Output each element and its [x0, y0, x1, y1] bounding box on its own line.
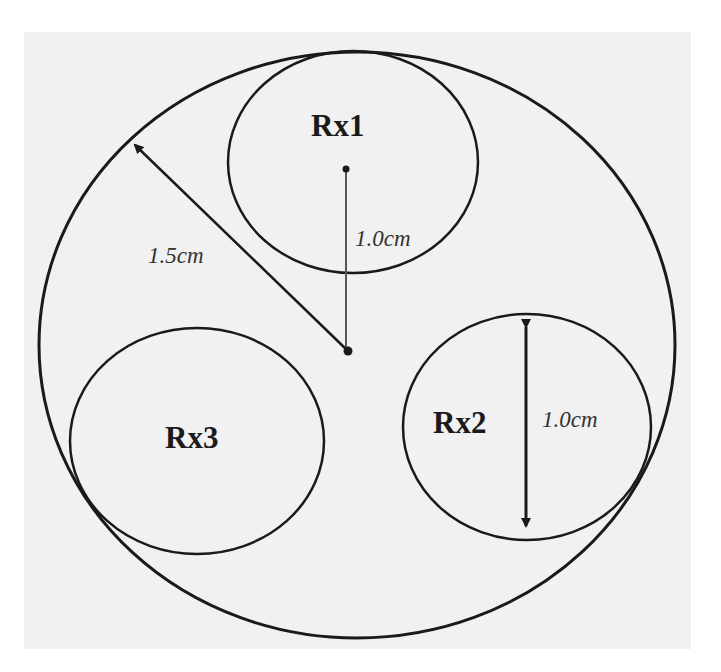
rx3-label: Rx3 [165, 420, 218, 455]
rx1-label: Rx1 [311, 108, 364, 143]
rx1-center-point [343, 166, 350, 173]
rx2-label: Rx2 [433, 405, 486, 440]
receiver-layout-diagram: Rx1 Rx2 Rx3 1.5cm 1.0cm 1.0cm [0, 0, 721, 672]
center-point [344, 347, 353, 356]
rx1-circle [228, 51, 478, 273]
rx2-diameter-label: 1.0cm [542, 407, 598, 432]
rx1-offset-label: 1.0cm [355, 226, 411, 251]
outer-radius-label: 1.5cm [148, 243, 204, 268]
